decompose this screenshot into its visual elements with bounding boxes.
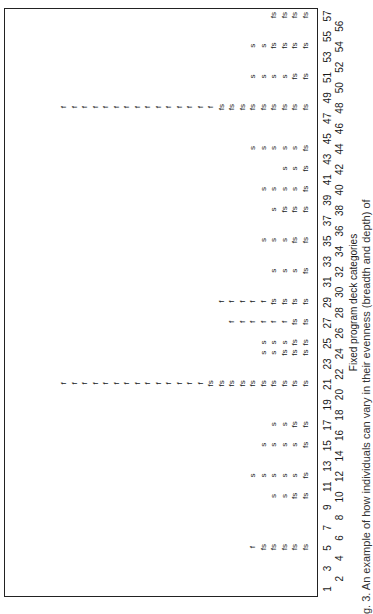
stack-category-38: fsfsfss (269, 203, 311, 215)
mark-fs: fs (269, 104, 280, 110)
x-tick-28: 28 (334, 303, 345, 323)
x-tick-26: 26 (334, 323, 345, 343)
mark-s: s (269, 187, 280, 191)
x-tick-22: 22 (334, 364, 345, 384)
stack-category-54: fsfsfsfsss (248, 40, 311, 52)
x-tick-7: 7 (322, 518, 333, 538)
mark-fs: fs (259, 104, 270, 110)
mark-f: f (185, 106, 196, 108)
mark-s: s (269, 422, 280, 426)
mark-s: s (248, 74, 259, 78)
x-tick-33: 33 (322, 252, 333, 272)
mark-f: f (91, 106, 102, 108)
mark-fs: fs (248, 380, 259, 386)
mark-fs: fs (280, 104, 291, 110)
mark-s: s (269, 146, 280, 150)
mark-s: s (259, 351, 270, 355)
stack-category-12: fssssss (248, 469, 311, 481)
mark-s: s (259, 44, 270, 48)
mark-fs: fs (280, 350, 291, 356)
mark-f: f (143, 382, 154, 384)
mark-f: f (196, 106, 207, 108)
stack-category-5: fsfsfsfsfsf (248, 541, 311, 553)
mark-fs: fs (301, 544, 312, 550)
mark-fs: fs (301, 165, 312, 171)
x-tick-8: 8 (334, 507, 345, 527)
mark-f: f (238, 321, 249, 323)
stack-category-35: fsfssss (259, 234, 312, 246)
mark-s: s (269, 473, 280, 477)
figure-caption: g. 3. An example of how individuals can … (360, 199, 372, 614)
mark-fs: fs (290, 544, 301, 550)
mark-fs: fs (280, 544, 291, 550)
mark-fs: fs (290, 421, 301, 427)
mark-fs: fs (301, 493, 312, 499)
mark-fs: fs (269, 12, 280, 18)
mark-s: s (280, 473, 291, 477)
mark-f: f (164, 106, 175, 108)
mark-fs: fs (280, 380, 291, 386)
stack-category-40: fsssss (259, 183, 312, 195)
mark-s: s (280, 146, 291, 150)
x-tick-2: 2 (334, 569, 345, 589)
mark-s: s (290, 187, 301, 191)
mark-s: s (248, 44, 259, 48)
x-tick-32: 32 (334, 262, 345, 282)
mark-s: s (248, 146, 259, 150)
x-tick-23: 23 (322, 354, 333, 374)
stack-category-29: fsfsfsfsfffff (217, 296, 312, 308)
mark-s: s (280, 340, 291, 344)
mark-f: f (175, 106, 186, 108)
mark-fs: fs (269, 380, 280, 386)
x-tick-1: 1 (322, 579, 333, 599)
mark-fs: fs (248, 104, 259, 110)
mark-f: f (112, 106, 123, 108)
mark-fs: fs (301, 350, 312, 356)
x-tick-16: 16 (334, 426, 345, 446)
mark-f: f (59, 382, 70, 384)
mark-f: f (154, 382, 165, 384)
x-tick-12: 12 (334, 466, 345, 486)
mark-s: s (259, 146, 270, 150)
stack-category-10: fsfsss (269, 490, 311, 502)
mark-fs: fs (290, 350, 301, 356)
mark-f: f (59, 106, 70, 108)
mark-s: s (269, 494, 280, 498)
mark-f: f (122, 106, 133, 108)
mark-s: s (259, 443, 270, 447)
mark-s: s (269, 351, 280, 355)
mark-fs: fs (301, 380, 312, 386)
stack-category-21: fsfsfsfsfsfsfsfsfsfsffffffffffffff (59, 377, 311, 389)
x-tick-19: 19 (322, 395, 333, 415)
x-tick-49: 49 (322, 88, 333, 108)
x-tick-18: 18 (334, 405, 345, 425)
mark-fs: fs (290, 493, 301, 499)
x-tick-42: 42 (334, 159, 345, 179)
mark-f: f (70, 106, 81, 108)
mark-fs: fs (290, 237, 301, 243)
x-tick-39: 39 (322, 190, 333, 210)
mark-fs: fs (301, 472, 312, 478)
x-tick-5: 5 (322, 538, 333, 558)
stack-category-57: fsfsfsfs (269, 9, 311, 21)
x-tick-35: 35 (322, 231, 333, 251)
plot-area: fsfsfsfsfsffsfsssfssssssfsssssfsfsssfsfs… (4, 8, 318, 597)
mark-f: f (259, 321, 270, 323)
mark-f: f (206, 106, 217, 108)
stack-category-17: fsfsss (269, 418, 311, 430)
x-tick-25: 25 (322, 333, 333, 353)
x-tick-10: 10 (334, 487, 345, 507)
x-tick-34: 34 (334, 241, 345, 261)
mark-s: s (269, 340, 280, 344)
mark-f: f (227, 300, 238, 302)
mark-s: s (280, 74, 291, 78)
mark-fs: fs (290, 380, 301, 386)
mark-fs: fs (301, 12, 312, 18)
mark-f: f (80, 382, 91, 384)
mark-f: f (154, 106, 165, 108)
mark-s: s (259, 340, 270, 344)
mark-fs: fs (269, 43, 280, 49)
mark-s: s (280, 238, 291, 242)
mark-s: s (269, 238, 280, 242)
mark-s: s (269, 74, 280, 78)
